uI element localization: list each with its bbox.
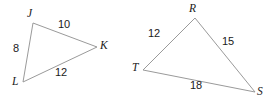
- vertex-label-t: T: [132, 62, 138, 74]
- side-label-jl: 8: [13, 43, 19, 54]
- vertex-label-k: K: [100, 40, 108, 52]
- side-label-tr: 12: [148, 28, 160, 39]
- vertex-label-j: J: [27, 8, 32, 20]
- vertex-label-s: S: [257, 86, 263, 98]
- side-label-jk: 10: [58, 19, 70, 30]
- side-label-ts: 18: [190, 80, 202, 91]
- side-label-rs: 15: [222, 36, 234, 47]
- geometry-diagram: J K L 10 8 12 R S T 12 15 18: [0, 0, 272, 101]
- vertex-label-r: R: [189, 3, 196, 15]
- triangles-canvas: [0, 0, 272, 101]
- side-label-lk: 12: [55, 67, 67, 78]
- vertex-label-l: L: [12, 76, 18, 88]
